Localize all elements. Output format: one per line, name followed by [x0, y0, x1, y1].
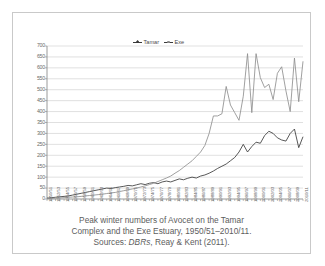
chart-area: 7006506005505004504003503002502001501005…	[13, 13, 310, 213]
caption-source-prefix: Sources:	[94, 237, 129, 247]
x-axis-tick-label: 1952/53	[57, 187, 61, 202]
caption-source-italic: DBRs	[129, 237, 151, 247]
x-axis-tick-label: 2002/03	[271, 187, 275, 202]
x-axis-tick-label: 2008/09	[296, 187, 300, 202]
x-axis-tick-label: 1966/67	[117, 187, 121, 202]
x-axis-tick-label: 1998/99	[254, 187, 258, 202]
x-axis-tick-label: 1974/75	[151, 187, 155, 202]
x-axis-tick-label: 1962/63	[100, 187, 104, 202]
caption-source-rest: , Reay & Kent (2011).	[150, 237, 229, 247]
x-axis-tick-label: 1988/89	[211, 187, 215, 202]
x-axis-tick-label: 2006/07	[288, 187, 292, 202]
x-axis-tick-label: 2010/11	[305, 187, 309, 202]
x-axis-tick-label: 1984/85	[194, 187, 198, 202]
x-axis-tick-label: 1994/95	[237, 187, 241, 202]
legend-marker-exe-icon	[164, 42, 173, 43]
x-axis-tick-label: 1954/55	[66, 187, 70, 202]
x-axis-tick-label: 1990/91	[219, 187, 223, 202]
x-axis-tick-label: 1960/61	[91, 187, 95, 202]
x-axis-tick-label: 1964/65	[109, 187, 113, 202]
x-axis-tick-label: 1968/69	[126, 187, 130, 202]
legend-marker-tamar-icon	[133, 42, 142, 43]
legend-item-tamar: Tamar	[133, 39, 159, 45]
caption-source: Sources: DBRs, Reay & Kent (2011).	[13, 237, 310, 248]
chart-legend: Tamar Exe	[133, 39, 184, 45]
caption-line-1: Peak winter numbers of Avocet on the Tam…	[13, 215, 310, 226]
x-axis-tick-label: 1958/59	[83, 187, 87, 202]
x-axis-tick-label: 1986/87	[202, 187, 206, 202]
x-axis-tick-label: 1950/51	[49, 187, 53, 202]
x-axis-tick-label: 1976/77	[160, 187, 164, 202]
legend-item-exe: Exe	[164, 39, 184, 45]
x-axis-tick-label: 1970/71	[134, 187, 138, 202]
x-axis-tick-label: 1978/79	[168, 187, 172, 202]
caption-line-2: Complex and the Exe Estuary, 1950/51–201…	[13, 226, 310, 237]
figure-caption: Peak winter numbers of Avocet on the Tam…	[13, 213, 310, 253]
x-axis-tick-label: 1972/73	[143, 187, 147, 202]
x-axis-tick-label: 1980/81	[177, 187, 181, 202]
legend-label-exe: Exe	[175, 39, 185, 45]
figure-container: 7006506005505004504003503002502001501005…	[12, 12, 311, 254]
legend-label-tamar: Tamar	[144, 39, 160, 45]
x-axis-tick-label: 1956/57	[74, 187, 78, 202]
x-axis-tick-label: 1996/97	[245, 187, 249, 202]
x-axis-tick-label: 2004/05	[279, 187, 283, 202]
x-axis-tick-label: 2000/01	[262, 187, 266, 202]
x-axis-tick-label: 1992/93	[228, 187, 232, 202]
x-axis-tick-label: 1982/83	[185, 187, 189, 202]
